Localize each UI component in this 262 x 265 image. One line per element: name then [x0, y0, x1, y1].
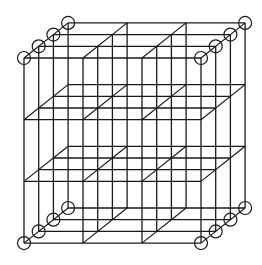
lattice-bond-z [201, 208, 245, 243]
lattice-bond-z [24, 146, 68, 181]
lattice-atoms [18, 16, 252, 249]
lattice-bond-z [142, 208, 186, 243]
lattice-bond-z [201, 85, 245, 120]
lattice-bond-z [83, 85, 127, 120]
lattice-bond-z [201, 23, 245, 58]
lattice-bond-z [24, 208, 68, 243]
lattice-bond-z [201, 146, 245, 181]
lattice-bond-z [142, 146, 186, 181]
lattice-bond-z [24, 23, 68, 58]
lattice-bond-z [142, 23, 186, 58]
lattice-bond-z [83, 208, 127, 243]
lattice-bond-z [83, 146, 127, 181]
lattice-bond-z [24, 85, 68, 120]
lattice-bond-z [83, 23, 127, 58]
cubic-lattice-diagram [0, 0, 262, 265]
lattice-bond-z [142, 85, 186, 120]
lattice-edges [24, 23, 245, 243]
